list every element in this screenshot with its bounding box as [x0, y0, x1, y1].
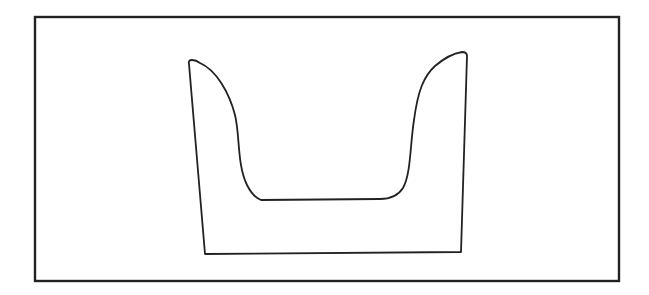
diagram-canvas [0, 0, 649, 295]
u-channel-profile [189, 52, 467, 254]
outer-frame [35, 17, 619, 281]
